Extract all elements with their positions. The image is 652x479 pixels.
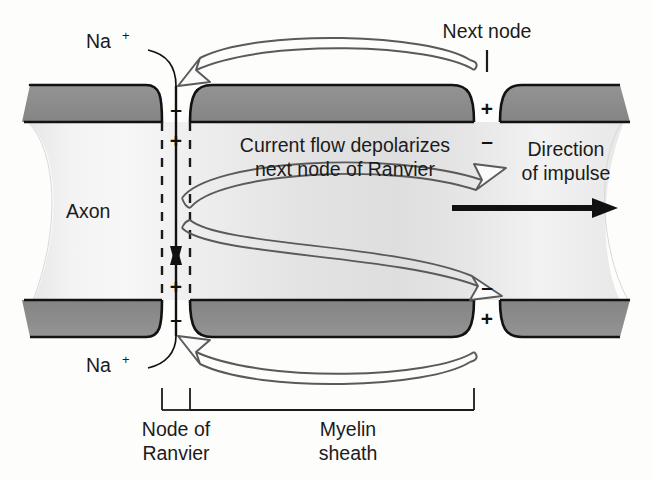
saltatory-conduction-figure: – + + – + – – + Na + Na [0,0,652,479]
label-myelin-sheath-line2: sheath [319,442,378,464]
na-top-text: Na [86,30,111,52]
label-node-of-ranvier-line2: Ranvier [142,442,210,464]
charge-next-node-inside-top: – [481,129,493,152]
charge-next-node-inside-bottom: – [481,275,493,298]
na-bottom-superscript: + [122,352,130,367]
label-na-top: Na + [86,28,130,52]
sodium-leader-bottom [148,336,176,368]
charge-active-node-inside-top: + [170,129,182,152]
label-axon: Axon [66,200,110,222]
na-top-superscript: + [122,28,130,43]
current-arrow-external-top [178,38,477,86]
label-na-bottom: Na + [86,352,130,376]
na-bottom-text: Na [86,354,111,376]
label-direction-line1: Direction [528,138,605,160]
label-current-flow-line1: Current flow depolarizes [240,134,451,156]
myelin-width-bracket [190,388,474,410]
charge-active-node-inside-bottom: + [170,275,182,298]
label-node-of-ranvier-line1: Node of [142,418,211,440]
label-next-node: Next node [443,20,532,42]
node-width-bracket [162,388,190,410]
myelin-sheath-bottom [22,300,630,337]
label-direction-line2: of impulse [522,162,611,184]
label-myelin-sheath-line1: Myelin [320,418,376,440]
myelin-sheath-top [22,85,630,122]
charge-active-node-outside-bottom: – [170,307,182,330]
current-arrow-external-bottom [178,336,477,384]
charge-next-node-outside-bottom: + [481,307,493,330]
sodium-leader-top [148,50,176,86]
label-current-flow-line2: next node of Ranvier [255,158,435,180]
charge-active-node-outside-top: – [170,97,182,120]
charge-next-node-outside-top: + [481,97,493,120]
